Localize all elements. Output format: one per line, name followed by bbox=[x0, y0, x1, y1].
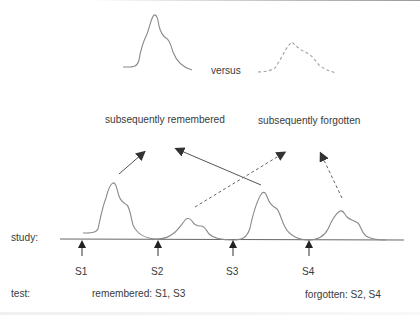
waveform-s2 bbox=[157, 218, 233, 240]
study-row-label: study: bbox=[11, 231, 38, 243]
subsequently-forgotten-label: subsequently forgotten bbox=[258, 114, 360, 126]
stimulus-marker-s3 bbox=[229, 240, 237, 256]
waveform-s1 bbox=[83, 183, 157, 239]
arrow-s4-to-forgotten bbox=[322, 156, 342, 198]
legend-solid-waveform bbox=[123, 15, 192, 70]
subsequently-remembered-label: subsequently remembered bbox=[105, 113, 225, 125]
waveform-s4 bbox=[308, 211, 386, 240]
stimulus-marker-s1 bbox=[78, 240, 86, 256]
diagram-canvas bbox=[0, 0, 420, 315]
arrow-s1-to-remembered bbox=[119, 154, 142, 174]
test-row-label: test: bbox=[11, 287, 30, 299]
stimulus-label-s2: S2 bbox=[151, 265, 163, 277]
arrow-s3-to-remembered bbox=[179, 150, 261, 185]
stimulus-marker-s2 bbox=[154, 240, 162, 256]
waveform-s3 bbox=[233, 192, 308, 240]
test-remembered-result: remembered: S1, S3 bbox=[92, 287, 185, 299]
stimulus-marker-s4 bbox=[305, 240, 313, 256]
stimulus-label-s4: S4 bbox=[302, 265, 314, 277]
versus-label: versus bbox=[211, 64, 241, 76]
test-forgotten-result: forgotten: S2, S4 bbox=[305, 288, 381, 300]
legend-dashed-waveform bbox=[258, 42, 336, 73]
stimulus-label-s3: S3 bbox=[226, 265, 238, 277]
stimulus-label-s1: S1 bbox=[75, 265, 87, 277]
